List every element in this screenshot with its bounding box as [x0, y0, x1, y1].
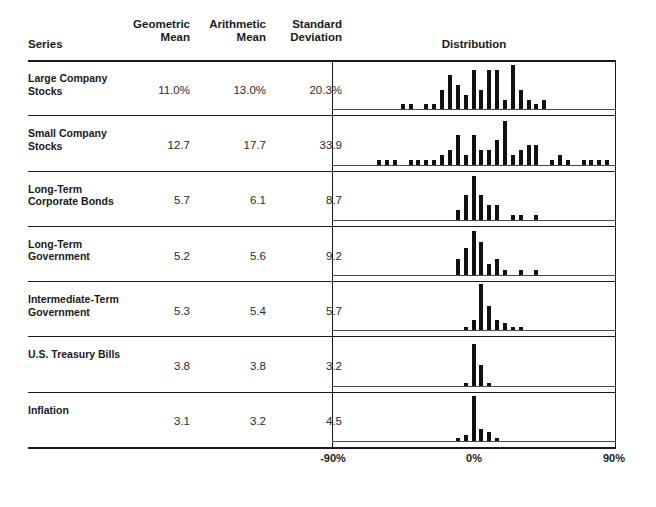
header-geometric-mean: Geometric Mean	[124, 18, 190, 44]
row-histogram	[332, 392, 616, 447]
histogram-bar	[534, 104, 538, 109]
histogram-bar	[534, 215, 538, 220]
histogram-bar	[487, 383, 491, 386]
histogram-bar	[511, 155, 515, 165]
cell-geometric-mean: 3.8	[124, 360, 190, 372]
histogram-bar	[550, 160, 554, 165]
cell-geometric-mean: 5.3	[124, 305, 190, 317]
histogram-bar	[503, 121, 507, 165]
row-series-label: Inflation	[28, 404, 69, 417]
histogram-bar	[472, 396, 476, 441]
histogram-bar	[519, 270, 523, 276]
histogram-bar	[519, 90, 523, 110]
histogram-bar	[495, 320, 499, 331]
cell-geometric-mean: 12.7	[124, 139, 190, 151]
histogram-bar	[416, 160, 420, 165]
histogram-bar	[519, 215, 523, 220]
histogram-bar	[582, 160, 586, 165]
row-histogram	[332, 171, 616, 226]
histogram-baseline	[332, 275, 616, 276]
histogram-bar	[487, 432, 491, 441]
histogram-bar	[495, 438, 499, 441]
histogram-bar	[495, 70, 499, 109]
header-arithmetic-mean: Arithmetic Mean	[200, 18, 266, 44]
header-distribution: Distribution	[332, 38, 616, 51]
histogram-bar	[464, 435, 468, 441]
histogram-bar	[472, 320, 476, 331]
histogram-bar	[605, 160, 609, 165]
histogram-bar	[464, 95, 468, 110]
histogram-bar	[503, 323, 507, 330]
histogram-bar	[503, 270, 507, 276]
header-standard-deviation-line1: Standard	[272, 18, 342, 31]
axis-label-left: -90%	[311, 452, 355, 464]
histogram-bar	[377, 160, 381, 165]
histogram-bar	[527, 145, 531, 165]
histogram-baseline	[332, 330, 616, 331]
histogram-bar	[558, 155, 562, 165]
row-series-label: Large Company Stocks	[28, 72, 107, 97]
histogram-bar	[472, 176, 476, 220]
histogram-bar	[472, 231, 476, 275]
row-histogram	[332, 60, 616, 115]
axis-label-right: 90%	[592, 452, 636, 464]
histogram-bar	[566, 160, 570, 165]
histogram-bar	[464, 383, 468, 386]
histogram-bar	[589, 160, 593, 165]
cell-arithmetic-mean: 3.2	[200, 415, 266, 427]
histogram-bar	[487, 264, 491, 275]
histogram-bar	[385, 160, 389, 165]
histogram-bar	[479, 90, 483, 110]
header-geometric-mean-line1: Geometric	[124, 18, 190, 31]
histogram-bar	[456, 259, 460, 276]
histogram-baseline	[332, 109, 616, 110]
cell-geometric-mean: 5.7	[124, 194, 190, 206]
row-histogram	[332, 336, 616, 391]
cell-arithmetic-mean: 5.4	[200, 305, 266, 317]
histogram-bar	[409, 104, 413, 109]
histogram-bar	[464, 195, 468, 219]
cell-arithmetic-mean: 17.7	[200, 139, 266, 151]
histogram-baseline	[332, 441, 616, 442]
histogram-bar	[542, 100, 546, 110]
histogram-bar	[401, 104, 405, 109]
histogram-bar	[464, 155, 468, 165]
histogram-bar	[487, 205, 491, 220]
row-histogram	[332, 226, 616, 281]
histogram-bar	[440, 155, 444, 165]
cell-arithmetic-mean: 5.6	[200, 250, 266, 262]
histogram-bar	[503, 100, 507, 110]
header-arithmetic-mean-line2: Mean	[200, 31, 266, 44]
histogram-bar	[448, 150, 452, 165]
histogram-bar	[393, 160, 397, 165]
histogram-bar	[495, 259, 499, 276]
histogram-bar	[487, 150, 491, 165]
histogram-bar	[527, 100, 531, 110]
header-series: Series	[28, 38, 63, 51]
histogram-bar	[487, 70, 491, 109]
table-bottom-rule	[28, 447, 616, 449]
histogram-bar	[448, 75, 452, 109]
figure-sheet: Series Geometric Mean Arithmetic Mean St…	[0, 0, 656, 507]
histogram-baseline	[332, 165, 616, 166]
histogram-bar	[472, 70, 476, 109]
histogram-bar	[597, 160, 601, 165]
histogram-bar	[464, 248, 468, 276]
row-series-label: Long-Term Government	[28, 238, 90, 263]
cell-geometric-mean: 11.0%	[124, 84, 190, 96]
histogram-bar	[511, 215, 515, 220]
histogram-bar	[440, 90, 444, 110]
histogram-bar	[464, 327, 468, 331]
histogram-bar	[472, 135, 476, 164]
histogram-bar	[495, 205, 499, 220]
histogram-bar	[472, 344, 476, 386]
row-histogram	[332, 115, 616, 170]
histogram-bar	[479, 365, 483, 386]
histogram-bar	[409, 160, 413, 165]
histogram-bar	[479, 242, 483, 275]
row-series-label: Small Company Stocks	[28, 127, 107, 152]
histogram-bar	[487, 306, 491, 331]
header-geometric-mean-line2: Mean	[124, 31, 190, 44]
histogram-bar	[479, 284, 483, 330]
cell-geometric-mean: 3.1	[124, 415, 190, 427]
